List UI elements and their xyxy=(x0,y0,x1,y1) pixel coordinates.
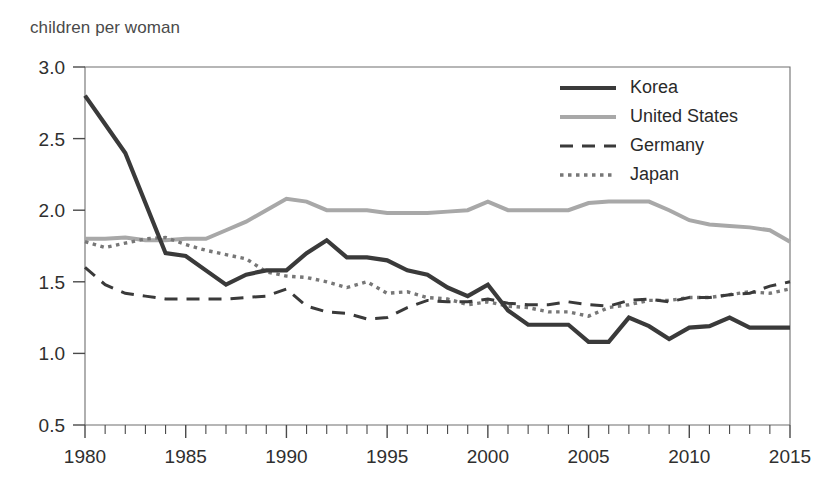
legend-label-korea: Korea xyxy=(630,77,679,97)
y-tick-label: 1.5 xyxy=(39,272,65,293)
x-tick-label: 2005 xyxy=(567,446,609,467)
y-axis-ticks xyxy=(73,67,85,425)
y-tick-label: 2.5 xyxy=(39,129,65,150)
series-line-united-states xyxy=(85,199,790,242)
y-tick-label: 2.0 xyxy=(39,200,65,221)
data-series-group xyxy=(85,96,790,342)
y-axis-labels: 3.02.52.01.51.00.5 xyxy=(39,57,65,436)
y-tick-label: 0.5 xyxy=(39,415,65,436)
y-tick-label: 3.0 xyxy=(39,57,65,78)
y-tick-label: 1.0 xyxy=(39,343,65,364)
fertility-rate-chart-figure: children per woman 3.02.52.01.51.00.5 19… xyxy=(0,0,828,499)
x-axis-ticks xyxy=(85,425,790,438)
x-tick-label: 2000 xyxy=(467,446,509,467)
legend-label-germany: Germany xyxy=(630,135,704,155)
x-tick-label: 1995 xyxy=(366,446,408,467)
x-tick-label: 2015 xyxy=(769,446,811,467)
x-tick-label: 1990 xyxy=(265,446,307,467)
series-line-japan xyxy=(85,237,790,316)
legend-label-united-states: United States xyxy=(630,106,738,126)
x-axis-labels: 19801985199019952000200520102015 xyxy=(64,446,811,467)
x-tick-label: 1985 xyxy=(165,446,207,467)
x-tick-label: 1980 xyxy=(64,446,106,467)
line-chart-plot: 3.02.52.01.51.00.5 198019851990199520002… xyxy=(0,0,828,499)
x-tick-label: 2010 xyxy=(668,446,710,467)
series-line-germany xyxy=(85,267,790,319)
chart-legend: KoreaUnited StatesGermanyJapan xyxy=(560,77,738,184)
legend-label-japan: Japan xyxy=(630,164,679,184)
